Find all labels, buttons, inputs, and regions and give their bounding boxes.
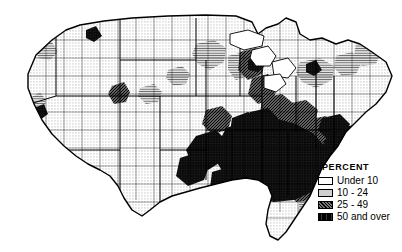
legend-label-25-49: 25 - 49	[337, 199, 368, 210]
legend-swatch-50-and-over	[318, 213, 333, 221]
legend-label-10-24: 10 - 24	[337, 187, 368, 198]
legend-label-under-10: Under 10	[337, 175, 378, 186]
legend-item-50-and-over[interactable]: 50 and over	[318, 211, 402, 222]
legend-item-under-10[interactable]: Under 10	[318, 175, 402, 186]
legend-label-50-and-over: 50 and over	[337, 211, 390, 222]
legend-item-10-24[interactable]: 10 - 24	[318, 187, 402, 198]
map-legend: PERCENT Under 10 10 - 24 25 - 49 50 and …	[318, 162, 402, 223]
map-page: PERCENT Under 10 10 - 24 25 - 49 50 and …	[0, 0, 402, 252]
legend-swatch-under-10	[318, 177, 333, 185]
legend-swatch-10-24	[318, 189, 333, 197]
legend-swatch-25-49	[318, 201, 333, 209]
legend-title: PERCENT	[322, 162, 402, 172]
legend-item-25-49[interactable]: 25 - 49	[318, 199, 402, 210]
